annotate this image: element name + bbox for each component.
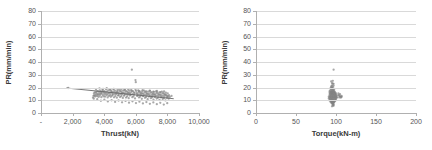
x-tick-mark [104, 113, 105, 116]
x-tick-mark [296, 113, 297, 116]
y-tick-label: 30 [232, 71, 251, 78]
gridline-y [41, 24, 199, 25]
data-point [337, 92, 339, 94]
data-point [134, 89, 136, 91]
data-point [131, 89, 133, 91]
y-axis-line [256, 11, 257, 113]
gridline-y [256, 62, 416, 63]
y-tick-label: 40 [17, 58, 36, 65]
gridline-y [41, 11, 199, 12]
y-tick-label: 20 [17, 84, 36, 91]
x-tick-label: 2,000 [64, 118, 82, 125]
data-point [145, 90, 147, 92]
x-tick-label: 10,000 [188, 118, 209, 125]
y-tick-label: 20 [232, 84, 251, 91]
x-tick-mark [73, 113, 74, 116]
x-tick-label: - [40, 118, 42, 125]
y-tick-label: 80 [232, 7, 251, 14]
data-point [128, 102, 130, 104]
data-point [141, 89, 143, 91]
y-axis-title-left: PR(mm/min) [4, 33, 13, 93]
x-tick-label: 150 [370, 118, 382, 125]
data-point [138, 90, 140, 92]
data-point [159, 91, 161, 93]
data-point [332, 80, 334, 82]
gridline-y [41, 62, 199, 63]
y-tick-label: 10 [17, 96, 36, 103]
data-point [128, 97, 130, 99]
x-tick-label: 100 [330, 118, 342, 125]
data-point [340, 96, 342, 98]
gridline-y [256, 49, 416, 50]
gridline-y [256, 88, 416, 89]
data-point [131, 69, 133, 71]
gridline-y [41, 37, 199, 38]
data-point [123, 89, 125, 91]
data-point [135, 102, 137, 104]
gridline-y [256, 37, 416, 38]
data-point [331, 105, 333, 107]
y-axis-title-right: PR(mm/min) [220, 33, 229, 93]
data-point [332, 82, 334, 84]
data-point [332, 69, 334, 71]
data-point [149, 103, 151, 105]
y-tick-label: 40 [232, 58, 251, 65]
data-point [170, 95, 172, 97]
chart-panel-torque: 01020304050607080050100150200 PR(mm/min)… [216, 0, 432, 150]
x-axis-title-right: Torque(kN-m) [312, 129, 361, 138]
gridline-y [256, 75, 416, 76]
x-tick-mark [376, 113, 377, 116]
y-tick-label: 70 [232, 20, 251, 27]
data-point [127, 88, 129, 90]
y-tick-label: 30 [17, 71, 36, 78]
chart-panel-thrust: 01020304050607080-2,0004,0006,0008,00010… [0, 0, 216, 150]
x-tick-mark [336, 113, 337, 116]
x-tick-mark [167, 113, 168, 116]
y-axis-line [41, 11, 42, 113]
data-point [152, 91, 154, 93]
x-tick-label: 0 [254, 118, 258, 125]
y-tick-label: 80 [17, 7, 36, 14]
data-point [122, 97, 124, 99]
gridline-y [41, 49, 199, 50]
x-tick-label: 200 [410, 118, 422, 125]
x-axis-line [41, 113, 199, 114]
x-axis-title-left: Thrust(kN) [101, 129, 139, 138]
data-point [163, 103, 165, 105]
y-tick-label: 50 [232, 45, 251, 52]
gridline-y [41, 100, 199, 101]
y-tick-label: 60 [232, 33, 251, 40]
data-point [134, 97, 136, 99]
data-point [149, 89, 151, 91]
x-tick-label: 6,000 [127, 118, 145, 125]
x-tick-mark [416, 113, 417, 116]
y-tick-label: 0 [17, 109, 36, 116]
y-tick-label: 50 [17, 45, 36, 52]
y-tick-label: 10 [232, 96, 251, 103]
data-point [109, 89, 111, 91]
x-tick-mark [199, 113, 200, 116]
data-point [166, 102, 168, 104]
x-tick-label: 4,000 [95, 118, 113, 125]
gridline-y [256, 24, 416, 25]
data-point [163, 90, 165, 92]
data-point [116, 89, 118, 91]
data-point [134, 79, 136, 81]
data-point [121, 101, 123, 103]
y-tick-label: 70 [17, 20, 36, 27]
data-point [142, 102, 144, 104]
x-tick-mark [256, 113, 257, 116]
x-tick-mark [41, 113, 42, 116]
y-tick-label: 60 [17, 33, 36, 40]
data-point [116, 97, 118, 99]
data-point [152, 101, 154, 103]
data-point [156, 90, 158, 92]
gridline-y [256, 11, 416, 12]
gridline-y [41, 88, 199, 89]
x-tick-label: 8,000 [159, 118, 177, 125]
gridline-y [256, 100, 416, 101]
figure-two-scatter-plots: 01020304050607080-2,0004,0006,0008,00010… [0, 0, 432, 150]
data-point [100, 96, 102, 98]
y-tick-label: 0 [232, 109, 251, 116]
data-point [156, 103, 158, 105]
